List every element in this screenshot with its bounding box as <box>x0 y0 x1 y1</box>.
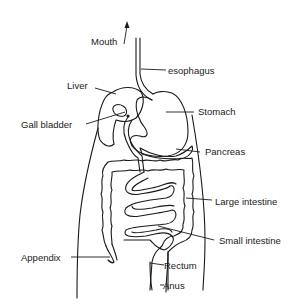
liver <box>98 88 143 147</box>
pancreas <box>140 146 193 159</box>
mouth-arrow-icon <box>124 21 130 44</box>
label-stomach: Stomach <box>198 106 236 117</box>
label-pancreas: Pancreas <box>205 146 245 157</box>
label-gall-bladder: Gall bladder <box>21 119 72 130</box>
label-mouth: Mouth <box>91 36 117 47</box>
label-liver: Liver <box>67 80 88 91</box>
body-outline-left <box>77 128 98 298</box>
label-rectum: Rectum <box>164 260 197 271</box>
digestive-system-diagram: Mouth esophagus Liver Gall bladder Stoma… <box>0 0 307 308</box>
label-small-intestine: Small intestine <box>219 235 281 246</box>
label-pointers <box>71 69 214 285</box>
stomach <box>130 91 188 156</box>
gall-bladder <box>113 105 127 117</box>
duodenum <box>124 117 144 172</box>
label-esophagus: esophagus <box>168 65 215 76</box>
label-large-intestine: Large intestine <box>215 196 277 207</box>
appendix <box>106 246 114 263</box>
label-appendix: Appendix <box>21 252 61 263</box>
label-anus: Anus <box>163 280 185 291</box>
